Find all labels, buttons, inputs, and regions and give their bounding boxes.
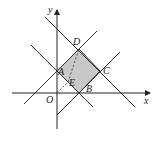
point-e-label: E: [68, 77, 75, 88]
geometry-figure: y x O A B C D E: [0, 0, 157, 143]
origin-label: O: [46, 94, 53, 105]
x-axis-label: x: [143, 95, 149, 106]
point-a-label: A: [57, 66, 65, 77]
dashed-oe: [57, 82, 68, 93]
point-d-label: D: [72, 36, 81, 47]
point-b-label: B: [86, 83, 92, 94]
y-axis-label: y: [47, 4, 53, 15]
point-c-label: C: [103, 65, 110, 76]
diagram-canvas: y x O A B C D E: [0, 0, 157, 143]
